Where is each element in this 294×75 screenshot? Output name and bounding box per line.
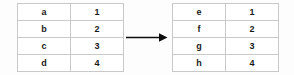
target-cell-key: h (173, 55, 226, 72)
target-cell-value: 3 (226, 38, 279, 55)
source-cell-value: 3 (71, 38, 124, 55)
table-row: f 2 (173, 21, 279, 38)
source-cell-value: 2 (71, 21, 124, 38)
target-cell-value: 2 (226, 21, 279, 38)
right-arrow-icon (126, 31, 168, 44)
table-row: b 2 (18, 21, 124, 38)
target-cell-key: g (173, 38, 226, 55)
source-cell-value: 1 (71, 4, 124, 21)
target-cell-value: 4 (226, 55, 279, 72)
table-row: g 3 (173, 38, 279, 55)
target-cell-key: e (173, 4, 226, 21)
table-row: h 4 (173, 55, 279, 72)
diagram-canvas: a 1 b 2 c 3 d 4 e 1 (0, 0, 294, 75)
source-cell-key: d (18, 55, 71, 72)
source-table: a 1 b 2 c 3 d 4 (17, 3, 124, 72)
table-row: e 1 (173, 4, 279, 21)
table-row: c 3 (18, 38, 124, 55)
source-cell-value: 4 (71, 55, 124, 72)
table-row: a 1 (18, 4, 124, 21)
target-table: e 1 f 2 g 3 h 4 (172, 3, 279, 72)
target-cell-key: f (173, 21, 226, 38)
source-cell-key: c (18, 38, 71, 55)
source-cell-key: b (18, 21, 71, 38)
table-row: d 4 (18, 55, 124, 72)
source-cell-key: a (18, 4, 71, 21)
target-cell-value: 1 (226, 4, 279, 21)
